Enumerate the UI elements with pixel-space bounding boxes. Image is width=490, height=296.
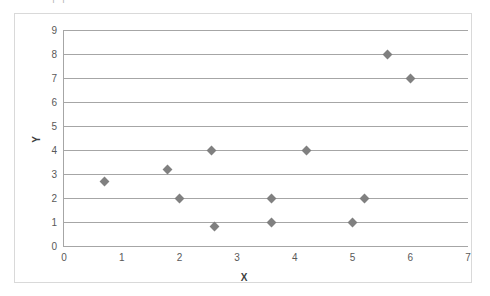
gridline-y <box>64 174 468 175</box>
data-point <box>209 222 219 232</box>
y-tick-label: 6 <box>51 97 57 108</box>
y-tick-label: 4 <box>51 145 57 156</box>
y-tick-label: 3 <box>51 169 57 180</box>
x-tick-label: 2 <box>177 252 183 263</box>
gridline-y <box>64 102 468 103</box>
y-tick-label: 8 <box>51 49 57 60</box>
x-tick-label: 5 <box>350 252 356 263</box>
x-tick-label: 7 <box>465 252 471 263</box>
x-tick-label: 4 <box>292 252 298 263</box>
y-axis-title: Y <box>31 136 42 143</box>
plot-area: 012345678901234567 <box>63 30 468 247</box>
y-tick-label: 1 <box>51 217 57 228</box>
data-point <box>382 49 392 59</box>
data-point <box>301 145 311 155</box>
data-point <box>267 193 277 203</box>
y-tick-label: 5 <box>51 121 57 132</box>
x-tick-label: 6 <box>408 252 414 263</box>
gridline-y <box>64 54 468 55</box>
gridline-y <box>64 150 468 151</box>
y-tick-label: 2 <box>51 193 57 204</box>
y-tick-label: 9 <box>51 25 57 36</box>
clipped-title-text: | | <box>52 0 67 3</box>
y-tick-label: 7 <box>51 73 57 84</box>
gridline-y <box>64 126 468 127</box>
data-point <box>99 176 109 186</box>
x-tick-label: 0 <box>61 252 67 263</box>
data-point <box>359 193 369 203</box>
scatter-chart: Y 012345678901234567 X <box>14 13 472 283</box>
data-point <box>348 217 358 227</box>
gridline-y <box>64 30 468 31</box>
data-point <box>405 73 415 83</box>
x-axis-title: X <box>15 272 473 283</box>
data-point <box>206 145 216 155</box>
data-point <box>174 193 184 203</box>
y-tick-label: 0 <box>51 241 57 252</box>
x-tick-label: 3 <box>234 252 240 263</box>
data-point <box>163 164 173 174</box>
x-tick-label: 1 <box>119 252 125 263</box>
clipped-title-strip: | | <box>0 0 490 12</box>
data-point <box>267 217 277 227</box>
